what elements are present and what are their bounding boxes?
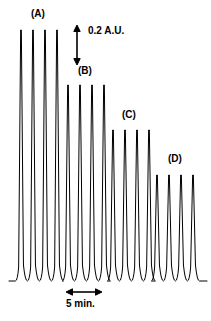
group-label-c: (C) [122, 110, 136, 120]
x-scalebar-arrow-right [96, 289, 103, 295]
x-scalebar-arrow-left [66, 289, 73, 295]
group-label-a: (A) [31, 9, 45, 19]
y-scalebar-arrow-up [74, 25, 80, 32]
chromatogram-figure: (A) (B) (C) (D) 0.2 A.U. 5 min. [0, 0, 211, 321]
group-label-d: (D) [168, 154, 182, 164]
x-scalebar-label: 5 min. [66, 299, 95, 309]
group-label-b: (B) [78, 66, 92, 76]
y-scalebar-label: 0.2 A.U. [88, 26, 124, 36]
